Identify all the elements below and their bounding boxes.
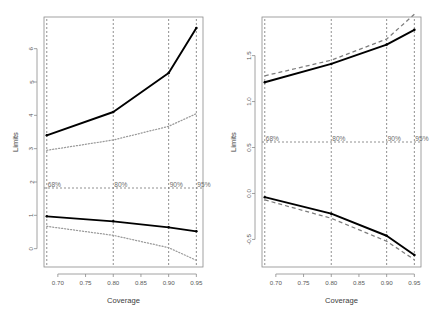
data-point [264, 196, 267, 199]
y-axis: -0.50.00.51.01.5 [246, 51, 256, 245]
x-axis-tick-label: 0.75 [298, 279, 311, 286]
y-axis-tick-label: -0.5 [246, 234, 253, 245]
data-point [167, 226, 170, 229]
coverage-annotation-95pct: 95% [197, 181, 210, 188]
x-axis-tick-label: 0.90 [381, 279, 394, 286]
x-axis-tick-label: 0.80 [325, 279, 338, 286]
x-axis-tick-label: 0.95 [408, 279, 421, 286]
data-point [167, 72, 170, 75]
data-point [330, 63, 333, 66]
data-point [264, 81, 267, 84]
y-axis: 0123456 [28, 46, 38, 250]
coverage-annotation-68pct: 68% [48, 181, 61, 188]
chart-svg-right: 0.700.750.800.850.900.95Coverage-0.50.00… [218, 0, 435, 314]
y-axis-title: Limits [11, 132, 20, 152]
chart-panel-left: 0.700.750.800.850.900.95Coverage0123456L… [0, 0, 217, 314]
coverage-annotation-68pct: 68% [266, 135, 279, 142]
coverage-annotation-80pct: 80% [332, 135, 345, 142]
series-lower-dashed-limit [265, 200, 415, 260]
data-point [195, 230, 198, 233]
y-axis-tick-label: 6 [28, 46, 35, 50]
x-axis-tick-label: 0.75 [80, 279, 93, 286]
series-upper-solid-limit [265, 30, 415, 82]
y-axis-tick-label: 2 [28, 180, 35, 184]
x-axis: 0.700.750.800.850.900.95 [270, 274, 421, 286]
data-point [112, 220, 115, 223]
y-axis-tick-label: 0.0 [246, 189, 253, 198]
plot-frame [262, 17, 421, 267]
data-point [413, 29, 416, 32]
x-axis-tick-label: 0.70 [52, 279, 65, 286]
data-point [195, 27, 198, 30]
coverage-annotation-90pct: 90% [388, 135, 401, 142]
y-axis-tick-label: 1.0 [246, 97, 253, 106]
data-point [385, 235, 388, 238]
coverage-annotation-80pct: 80% [114, 181, 127, 188]
data-point [413, 254, 416, 256]
figure-canvas: 0.700.750.800.850.900.95Coverage0123456L… [0, 0, 435, 314]
y-axis-tick-label: 1.5 [246, 51, 253, 60]
x-axis-tick-label: 0.70 [270, 279, 283, 286]
x-axis-title: Coverage [107, 296, 140, 305]
y-axis-tick-label: 0 [28, 246, 35, 250]
data-point [112, 111, 115, 114]
series-upper-dotted-limit [47, 114, 197, 151]
x-axis-tick-label: 0.95 [190, 279, 203, 286]
chart-svg-left: 0.700.750.800.850.900.95Coverage0123456L… [0, 0, 217, 314]
data-point [46, 134, 49, 137]
chart-panel-right: 0.700.750.800.850.900.95Coverage-0.50.00… [218, 0, 435, 314]
x-axis-tick-label: 0.85 [353, 279, 366, 286]
coverage-annotation-95pct: 95% [415, 135, 428, 142]
series-upper-dashed-limit [265, 14, 415, 76]
data-point [46, 215, 49, 218]
y-axis-tick-label: 0.5 [246, 143, 253, 152]
y-axis-tick-label: 3 [28, 146, 35, 150]
x-axis: 0.700.750.800.850.900.95 [52, 274, 203, 286]
y-axis-tick-label: 5 [28, 80, 35, 84]
data-point [330, 212, 333, 215]
series-upper-solid-limit [47, 28, 197, 135]
x-axis-tick-label: 0.90 [163, 279, 176, 286]
y-axis-tick-label: 1 [28, 213, 35, 217]
y-axis-title: Limits [229, 132, 238, 152]
y-axis-tick-label: 4 [28, 113, 35, 117]
series-lower-dotted-limit [47, 226, 197, 260]
x-axis-tick-label: 0.85 [135, 279, 148, 286]
coverage-annotation-90pct: 90% [170, 181, 183, 188]
x-axis-tick-label: 0.80 [107, 279, 120, 286]
data-point [385, 43, 388, 46]
x-axis-title: Coverage [325, 296, 358, 305]
